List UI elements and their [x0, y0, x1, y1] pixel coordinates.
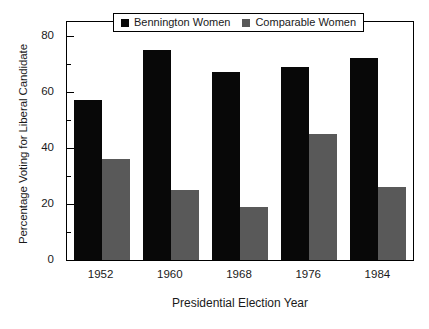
y-axis-tick-labels: 020406080: [28, 0, 54, 329]
y-axis-minor-tick: [67, 232, 71, 233]
y-axis-minor-tick: [67, 120, 71, 121]
legend-label: Bennington Women: [134, 17, 230, 28]
plot-inner: [67, 22, 413, 260]
x-tick-label: 1968: [226, 268, 252, 281]
bar-chart-figure: Percentage Voting for Liberal Candidate …: [0, 0, 429, 329]
x-tick-label: 1960: [157, 268, 183, 281]
y-axis-major-tick: [67, 92, 74, 93]
bar-1960-bennington: [143, 50, 171, 260]
plot-area: [66, 21, 414, 261]
bar-1952-bennington: [74, 100, 102, 260]
legend-entry-comparable-women: Comparable Women: [242, 17, 356, 28]
legend-label: Comparable Women: [255, 17, 356, 28]
bar-1984-bennington: [350, 58, 378, 260]
bar-1976-bennington: [281, 67, 309, 260]
bar-1968-comparable: [240, 207, 268, 260]
y-tick-label: 40: [28, 142, 54, 152]
y-tick-label: 0: [28, 254, 54, 264]
x-axis-tick-labels: 19521960196819761984: [66, 268, 414, 284]
bar-1960-comparable: [171, 190, 199, 260]
legend-entry-bennington-women: Bennington Women: [121, 17, 230, 28]
y-axis-minor-tick: [67, 64, 71, 65]
y-tick-label: 60: [28, 86, 54, 96]
y-tick-label: 80: [28, 30, 54, 40]
x-axis-title: Presidential Election Year: [66, 296, 414, 310]
y-axis-major-tick: [67, 36, 74, 37]
y-axis-major-tick: [67, 260, 74, 261]
bar-1984-comparable: [378, 187, 406, 260]
bar-1968-bennington: [212, 72, 240, 260]
x-tick-label: 1984: [365, 268, 391, 281]
y-axis-minor-tick: [67, 176, 71, 177]
bar-1952-comparable: [102, 159, 130, 260]
x-tick-label: 1952: [88, 268, 114, 281]
bar-1976-comparable: [309, 134, 337, 260]
chart-legend: Bennington WomenComparable Women: [113, 13, 364, 32]
legend-swatch-icon: [121, 19, 129, 27]
legend-swatch-icon: [242, 19, 250, 27]
y-tick-label: 20: [28, 198, 54, 208]
x-tick-label: 1976: [295, 268, 321, 281]
